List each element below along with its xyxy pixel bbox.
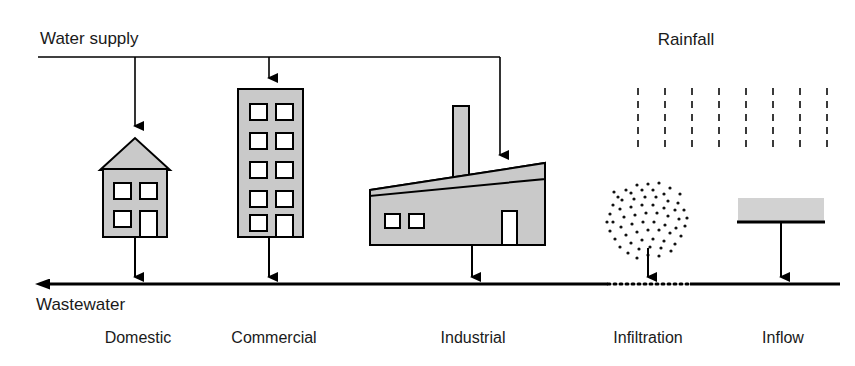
- rainfall-label: Rainfall: [658, 30, 715, 49]
- commercial-window-r2c2: [276, 133, 293, 149]
- caption-inflow: Inflow: [762, 329, 804, 346]
- caption-infiltration: Infiltration: [613, 329, 682, 346]
- house-door: [140, 211, 157, 237]
- commercial-window-r3c2: [276, 162, 293, 178]
- house-window-lower-left: [114, 211, 131, 227]
- commercial-window-r5c1: [250, 215, 267, 231]
- diagram-canvas: Water supply: [0, 0, 855, 366]
- water-supply-label: Water supply: [40, 29, 139, 48]
- commercial-door: [276, 215, 293, 237]
- commercial-window-r1c1: [250, 104, 267, 120]
- commercial-window-r4c1: [250, 191, 267, 207]
- factory-chimney: [453, 106, 469, 184]
- factory-window-right: [409, 214, 424, 228]
- commercial-building-figure: [238, 89, 303, 277]
- rainfall-dashes-group: [638, 88, 827, 148]
- factory-window-left: [385, 214, 400, 228]
- caption-commercial: Commercial: [231, 329, 316, 346]
- commercial-window-r2c1: [250, 133, 267, 149]
- domestic-house-figure: [100, 138, 170, 277]
- industrial-building-figure: [370, 106, 545, 277]
- commercial-window-r4c2: [276, 191, 293, 207]
- caption-domestic: Domestic: [105, 329, 172, 346]
- wastewater-label: Wastewater: [36, 295, 125, 314]
- inflow-figure: [737, 198, 825, 277]
- house-roof: [100, 138, 170, 170]
- infiltration-dot-cluster: [605, 181, 688, 259]
- inflow-surface-slab: [738, 198, 824, 222]
- infiltration-soil-figure: [605, 181, 688, 277]
- factory-door: [502, 211, 517, 245]
- commercial-window-r1c2: [276, 104, 293, 120]
- caption-industrial: Industrial: [441, 329, 506, 346]
- wastewater-sources-diagram: Water supply: [0, 0, 855, 366]
- house-window-upper-right: [140, 183, 157, 199]
- house-window-upper-left: [114, 183, 131, 199]
- commercial-window-r3c1: [250, 162, 267, 178]
